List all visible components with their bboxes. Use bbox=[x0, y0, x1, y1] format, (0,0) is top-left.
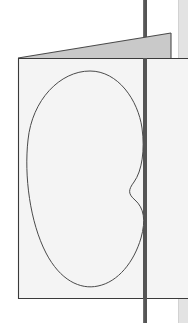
scene-canvas bbox=[0, 0, 188, 323]
scene-vector-illustration bbox=[0, 0, 188, 323]
vertical-post-over-panel bbox=[143, 58, 147, 299]
